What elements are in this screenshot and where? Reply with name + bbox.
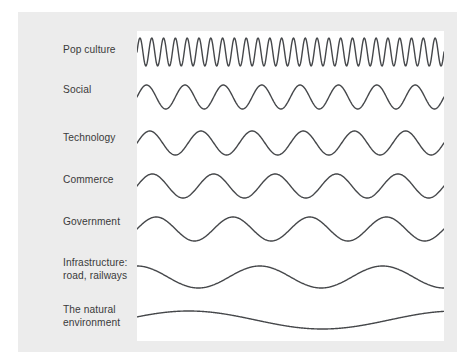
wave-curve-4 xyxy=(137,217,444,241)
figure-canvas: Pop cultureSocialTechnologyCommerceGover… xyxy=(0,0,475,363)
wave-curve-5 xyxy=(137,266,444,288)
wave-curve-2 xyxy=(137,131,444,155)
row-label-3: Commerce xyxy=(63,174,114,187)
row-label-4: Government xyxy=(63,216,120,229)
row-label-1: Social xyxy=(63,84,91,97)
row-label-5: Infrastructure: road, railways xyxy=(63,257,127,282)
wave-curve-3 xyxy=(137,174,444,198)
row-label-0: Pop culture xyxy=(63,44,116,57)
wave-curve-1 xyxy=(137,85,444,109)
wave-curve-6 xyxy=(137,311,444,329)
row-label-6: The natural environment xyxy=(63,304,120,329)
wave-chart xyxy=(137,31,444,341)
wave-curve-0 xyxy=(137,38,444,66)
row-label-2: Technology xyxy=(63,132,116,145)
